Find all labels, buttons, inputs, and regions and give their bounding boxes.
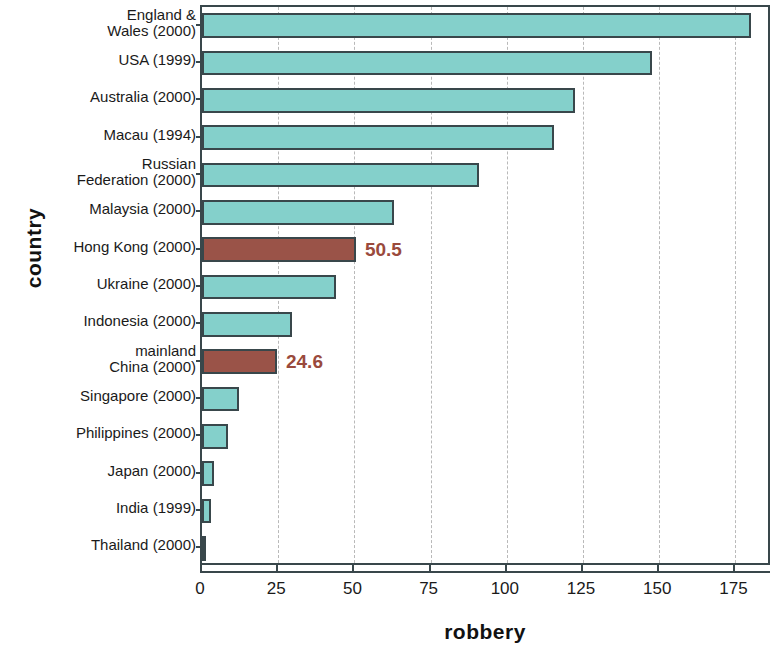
x-tick-mark [505,565,507,573]
bar[interactable] [202,88,575,113]
y-tick-mark [196,322,202,324]
x-tick-mark [276,565,278,573]
y-tick-label-line: Japan (2000) [0,463,196,479]
y-tick-label-line: Hong Kong (2000) [0,239,196,255]
gridline-125 [583,7,584,563]
y-tick-label: mainlandChina (2000) [0,343,196,375]
y-tick-label-line: Indonesia (2000) [0,313,196,329]
gridline-150 [659,7,660,563]
plot-area: 50.524.6 [200,5,770,565]
y-tick-mark [196,472,202,474]
y-tick-mark [196,434,202,436]
bar[interactable] [202,13,751,38]
y-tick-label: Philippines (2000) [0,425,196,441]
y-tick-label-line: Federation (2000) [0,172,196,188]
y-tick-label: Hong Kong (2000) [0,239,196,255]
x-tick-label: 50 [343,579,362,599]
y-tick-label-line: Thailand (2000) [0,537,196,553]
x-tick-mark [352,565,354,573]
robbery-bar-chart: country 50.524.6 0255075100125150175 rob… [0,0,774,651]
bar[interactable] [202,275,336,300]
bar[interactable] [202,424,228,449]
y-tick-mark [196,546,202,548]
bar-value-label: 24.6 [286,351,323,373]
y-tick-mark [196,98,202,100]
y-tick-mark [196,136,202,138]
x-tick-label: 125 [567,579,595,599]
x-tick-mark [657,565,659,573]
y-tick-label-line: China (2000) [0,359,196,375]
y-tick-label-line: Philippines (2000) [0,425,196,441]
y-tick-label: Indonesia (2000) [0,313,196,329]
y-tick-label: Ukraine (2000) [0,276,196,292]
x-tick-mark [581,565,583,573]
y-tick-label: India (1999) [0,500,196,516]
y-tick-label: England &Wales (2000) [0,7,196,39]
y-tick-label-line: mainland [0,343,196,359]
bar[interactable] [202,163,479,188]
y-tick-label: Japan (2000) [0,463,196,479]
bar[interactable] [202,536,206,561]
y-tick-label: RussianFederation (2000) [0,156,196,188]
y-tick-mark [196,24,202,26]
y-tick-mark [196,173,202,175]
y-tick-label-line: Ukraine (2000) [0,276,196,292]
y-tick-mark [196,61,202,63]
bar-value-label: 50.5 [365,239,402,261]
x-tick-label: 175 [719,579,747,599]
y-tick-label: Macau (1994) [0,127,196,143]
y-tick-mark [196,509,202,511]
y-tick-mark [196,248,202,250]
y-tick-mark [196,360,202,362]
bar[interactable] [202,200,394,225]
y-tick-label-line: England & [0,7,196,23]
x-tick-mark [429,565,431,573]
x-tick-label: 0 [195,579,204,599]
x-tick-label: 100 [491,579,519,599]
bar[interactable] [202,51,652,76]
y-tick-label: USA (1999) [0,52,196,68]
bar[interactable] [202,312,292,337]
y-tick-label-line: USA (1999) [0,52,196,68]
y-tick-label: Australia (2000) [0,89,196,105]
bar[interactable] [202,499,211,524]
x-tick-label: 25 [267,579,286,599]
bar[interactable] [202,387,239,412]
y-tick-mark [196,210,202,212]
y-tick-mark [196,397,202,399]
x-tick-label: 150 [643,579,671,599]
y-tick-label: Malaysia (2000) [0,201,196,217]
y-tick-label-line: Macau (1994) [0,127,196,143]
x-axis-title: robbery [200,620,770,644]
y-tick-label-line: India (1999) [0,500,196,516]
gridline-175 [735,7,736,563]
x-tick-label: 75 [419,579,438,599]
x-tick-mark [200,565,202,573]
y-tick-label-line: Russian [0,156,196,172]
bar[interactable] [202,461,214,486]
y-tick-mark [196,285,202,287]
y-tick-label: Thailand (2000) [0,537,196,553]
bar[interactable] [202,125,554,150]
y-tick-label-line: Wales (2000) [0,23,196,39]
x-axis: 0255075100125150175 [200,571,770,573]
x-tick-mark [733,565,735,573]
y-tick-label: Singapore (2000) [0,388,196,404]
y-tick-label-line: Singapore (2000) [0,388,196,404]
y-tick-label-line: Australia (2000) [0,89,196,105]
bar[interactable] [202,349,277,374]
y-tick-label-line: Malaysia (2000) [0,201,196,217]
bar[interactable] [202,237,356,262]
